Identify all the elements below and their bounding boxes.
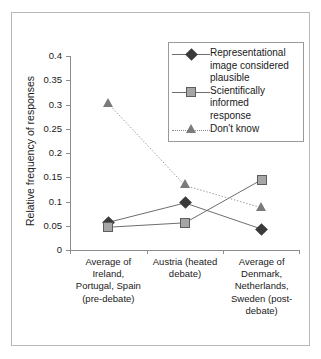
legend-label-scientifically-informed: Scientifically informed response bbox=[210, 85, 265, 123]
legend-label-representational-image: Representational image considered plausi… bbox=[210, 47, 289, 85]
legend-entry-representational-image: Representational image considered plausi… bbox=[172, 47, 300, 85]
line-chart: Relative frequency of responses 00.050.1… bbox=[0, 0, 321, 359]
legend-key-diamond-icon bbox=[172, 48, 210, 61]
legend-entry-scientifically-informed: Scientifically informed response bbox=[172, 85, 300, 123]
chart-legend: Representational image considered plausi… bbox=[168, 42, 304, 142]
legend-label-dont-know: Don't know bbox=[210, 123, 259, 136]
legend-key-triangle-icon bbox=[172, 124, 210, 137]
legend-key-square-icon bbox=[172, 86, 210, 99]
series-line bbox=[108, 203, 261, 229]
legend-entry-dont-know: Don't know bbox=[172, 123, 300, 137]
